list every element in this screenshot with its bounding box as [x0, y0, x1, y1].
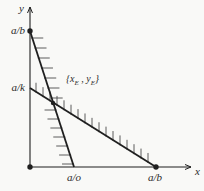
figure-canvas — [0, 0, 204, 191]
tick-label-a-over-k-y-axis: a/k — [1, 82, 25, 93]
equilibrium-point-label: {xE , yE} — [66, 74, 99, 87]
equilibrium-label-close: } — [95, 73, 99, 84]
equilibrium-label-comma: , y — [79, 73, 91, 84]
tick-label-a-over-o-x-axis: a/o — [62, 172, 86, 183]
x-axis-title: x — [195, 166, 200, 177]
diagram-figure: y x a/b a/k a/o a/b {xE , yE} — [0, 0, 204, 191]
y-axis-title: y — [19, 3, 24, 14]
tick-label-a-over-b-x-axis: a/b — [143, 172, 167, 183]
tick-label-a-over-b-y-axis: a/b — [1, 25, 25, 36]
